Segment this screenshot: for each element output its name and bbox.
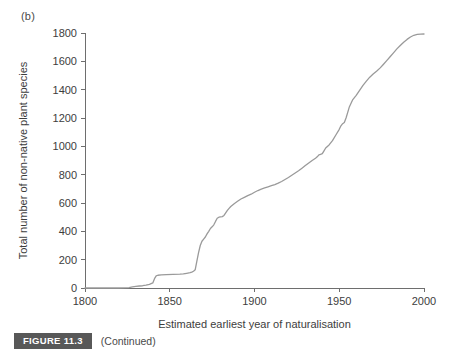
- y-axis-tick-label: 200: [59, 254, 77, 266]
- y-axis-tick-label: 400: [59, 225, 77, 237]
- figure-caption: FIGURE 11.3 (Continued): [14, 333, 156, 349]
- x-axis-tick-label: 2000: [412, 295, 436, 307]
- y-axis-tick-marks: [81, 33, 85, 288]
- x-axis-tick-label: 1900: [242, 295, 266, 307]
- x-axis-tick-label: 1850: [158, 295, 182, 307]
- y-axis-tick-label: 1800: [53, 27, 77, 39]
- y-axis-tick-label: 1400: [53, 84, 77, 96]
- series-line-cumulative-species: [85, 34, 424, 288]
- y-axis-tick-label: 0: [71, 282, 77, 294]
- x-axis-tick-labels: 18001850190019502000: [73, 295, 436, 307]
- y-axis-tick-label: 1600: [53, 55, 77, 67]
- y-axis-tick-label: 1200: [53, 112, 77, 124]
- y-axis-tick-label: 1000: [53, 140, 77, 152]
- figure-caption-text: (Continued): [101, 335, 156, 347]
- y-axis-title: Total number of non-native plant species: [17, 61, 29, 259]
- x-axis-tick-label: 1950: [327, 295, 351, 307]
- x-axis-title: Estimated earliest year of naturalisatio…: [158, 318, 351, 330]
- x-axis-tick-marks: [85, 288, 424, 292]
- y-axis-tick-label: 600: [59, 197, 77, 209]
- y-axis-tick-label: 800: [59, 169, 77, 181]
- figure-number-badge: FIGURE 11.3: [14, 333, 92, 349]
- y-axis-tick-labels: 020040060080010001200140016001800: [53, 27, 77, 294]
- figure-panel-b: (b) 020040060080010001200140016001800 18…: [0, 0, 453, 364]
- chart-canvas: 020040060080010001200140016001800 180018…: [0, 0, 453, 332]
- x-axis-tick-label: 1800: [73, 295, 97, 307]
